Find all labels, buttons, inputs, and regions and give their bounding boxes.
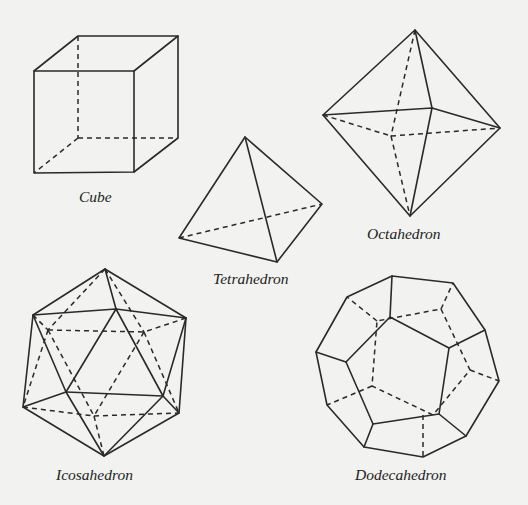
platonic-solids-figure bbox=[0, 0, 528, 505]
icosahedron-label: Icosahedron bbox=[56, 466, 133, 484]
octahedron-label: Octahedron bbox=[367, 225, 440, 243]
icosahedron-drawing bbox=[23, 269, 186, 456]
cube-label: Cube bbox=[79, 188, 112, 206]
tetrahedron-label: Tetrahedron bbox=[213, 270, 289, 288]
octahedron-drawing bbox=[323, 30, 500, 216]
dodecahedron-label: Dodecahedron bbox=[355, 466, 447, 484]
cube-drawing bbox=[34, 36, 178, 173]
dodecahedron-drawing bbox=[316, 276, 499, 457]
tetrahedron-drawing bbox=[179, 137, 322, 262]
